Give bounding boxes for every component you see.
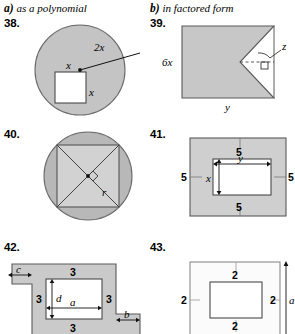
problem-number-40: 40. xyxy=(4,128,19,140)
notch-angle-arc xyxy=(258,53,270,58)
inner-rectangle xyxy=(210,282,262,318)
figure-42: c b 3 3 3 3 d a xyxy=(4,258,144,334)
notched-rectangle-shape xyxy=(182,26,274,98)
right-angle-marker xyxy=(261,62,268,69)
figure-40: r xyxy=(38,126,142,226)
label-radius-2x: 2x xyxy=(94,41,105,53)
label-width-y: y xyxy=(224,101,230,113)
label-border-right-5: 5 xyxy=(288,171,294,183)
problem-number-42: 42. xyxy=(4,241,19,253)
label-border-left-2: 2 xyxy=(181,294,187,306)
problem-number-43: 43. xyxy=(150,241,165,253)
label-border-bottom-5: 5 xyxy=(236,201,242,213)
label-border-bottom-2: 2 xyxy=(232,320,238,332)
label-right-3: 3 xyxy=(106,293,112,305)
label-left-3: 3 xyxy=(36,293,42,305)
column-header-a-lead: a) xyxy=(4,2,14,14)
arrowhead-a-up xyxy=(284,261,289,266)
label-border-left-5: 5 xyxy=(181,171,187,183)
label-inner-height-x: x xyxy=(205,172,211,184)
column-header-b-text: in factored form xyxy=(162,2,233,14)
label-offset-b: b xyxy=(124,308,130,320)
label-inner-height-d: d xyxy=(56,292,62,304)
square-hole xyxy=(55,72,86,103)
figure-39: z 6x y xyxy=(178,22,294,114)
problem-number-38: 38. xyxy=(4,17,19,29)
problem-number-41: 41. xyxy=(150,128,165,140)
label-border-right-2: 2 xyxy=(270,294,276,306)
column-header-b-lead: b) xyxy=(150,2,160,14)
label-height-6x: 6x xyxy=(162,56,173,68)
center-point xyxy=(86,174,90,178)
column-header-a: a) as a polynomial xyxy=(4,2,87,14)
label-square-right-x: x xyxy=(88,86,94,98)
column-header-a-text: as a polynomial xyxy=(16,2,86,14)
label-bottom-3: 3 xyxy=(70,322,76,334)
figure-38: 2x x x xyxy=(28,20,146,120)
arrowhead-c-left xyxy=(8,273,12,278)
label-square-top-x: x xyxy=(65,59,71,71)
problem-number-39: 39. xyxy=(150,17,165,29)
label-overall-height-a: a xyxy=(289,294,295,306)
label-inner-width-a: a xyxy=(70,296,76,308)
label-offset-c: c xyxy=(16,263,21,275)
figure-41: 5 5 5 5 x y xyxy=(182,132,294,224)
label-top-3: 3 xyxy=(70,266,76,278)
column-header-b: b) in factored form xyxy=(150,2,234,14)
label-inner-width-y: y xyxy=(237,152,243,164)
figure-43: 2 2 2 2 a xyxy=(182,256,294,332)
label-border-top-2: 2 xyxy=(232,269,238,281)
label-notch-z: z xyxy=(281,40,287,52)
label-radius-r: r xyxy=(102,186,107,198)
z-leader-line xyxy=(270,50,281,58)
